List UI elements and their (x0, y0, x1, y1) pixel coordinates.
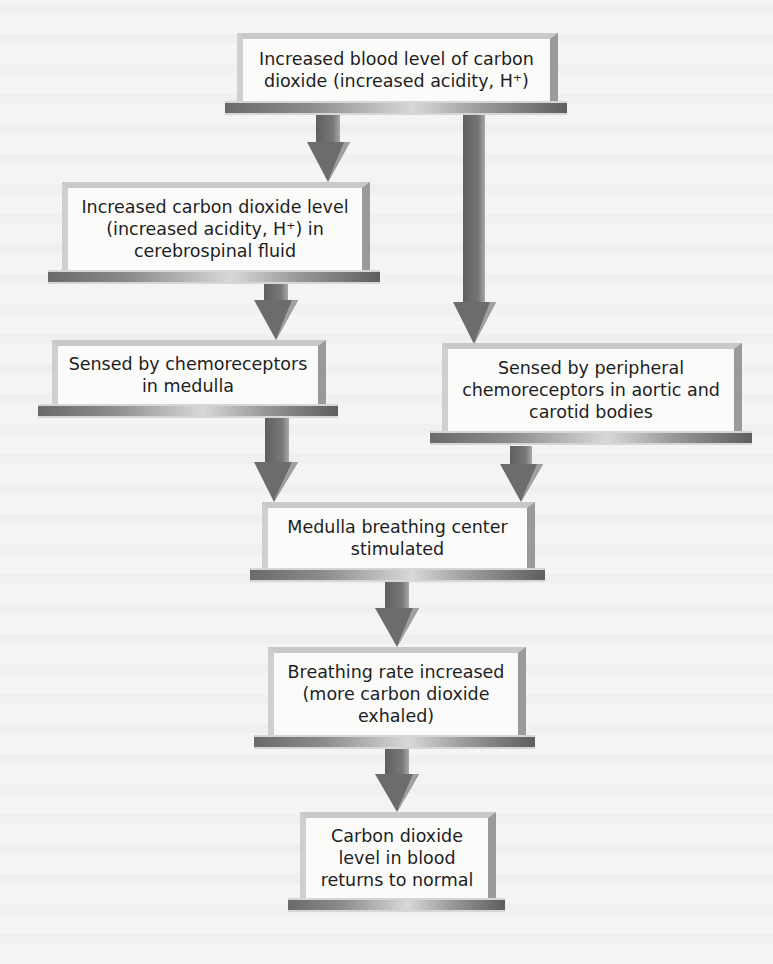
arrow-n6-to-n7 (375, 749, 419, 812)
node-peripheral-chemoreceptors: Sensed by peripheral chemoreceptors in a… (442, 343, 742, 431)
node-increased-blood-co2: Increased blood level of carbon dioxide … (237, 33, 558, 101)
node-base-bar (288, 898, 505, 912)
arrow-n3-to-n5 (254, 418, 298, 502)
arrow-n5-to-n6 (375, 582, 419, 647)
node-base-bar (254, 735, 535, 749)
node-label: Carbon dioxide level in blood returns to… (321, 825, 474, 891)
arrow-n1-to-n4 (453, 115, 496, 344)
arrow-n4-to-n5 (500, 446, 543, 502)
node-base-bar (250, 568, 545, 582)
node-label: Increased carbon dioxide level (increase… (81, 196, 348, 262)
node-breathing-rate-increased: Breathing rate increased (more carbon di… (268, 647, 526, 735)
node-base-bar (48, 270, 380, 284)
arrow-n2-to-n3 (254, 284, 298, 340)
node-label: Breathing rate increased (more carbon di… (288, 661, 505, 727)
node-label: Sensed by chemoreceptors in medulla (69, 353, 308, 397)
node-breathing-center: Medulla breathing center stimulated (262, 502, 535, 568)
node-co2-returns-normal: Carbon dioxide level in blood returns to… (300, 812, 496, 898)
node-base-bar (38, 404, 338, 418)
node-label: Increased blood level of carbon dioxide … (259, 48, 534, 92)
node-label: Sensed by peripheral chemoreceptors in a… (462, 357, 720, 423)
node-base-bar (430, 431, 752, 445)
arrow-n1-to-n2 (307, 115, 350, 182)
node-medulla-chemoreceptors: Sensed by chemoreceptors in medulla (52, 340, 326, 404)
node-csf-co2: Increased carbon dioxide level (increase… (62, 182, 370, 270)
node-base-bar (225, 101, 567, 115)
node-label: Medulla breathing center stimulated (287, 516, 507, 560)
